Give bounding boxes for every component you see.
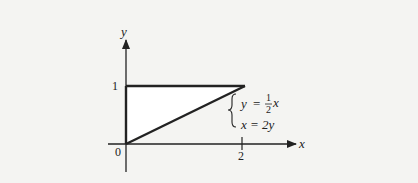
svg-text:2: 2 [266, 104, 271, 115]
svg-text:=: = [253, 96, 260, 111]
x-tick-label-2: 2 [238, 149, 244, 163]
coordinate-diagram: y x 0 1 2 y = 1 2 x x = 2y [0, 0, 418, 183]
y-tick-label-1: 1 [112, 79, 118, 93]
equation-x-2y: x = 2y [240, 117, 275, 132]
svg-text:y: y [239, 96, 247, 111]
y-axis-label: y [119, 24, 127, 39]
svg-text:1: 1 [266, 92, 271, 103]
origin-label: 0 [115, 145, 121, 159]
svg-text:x: x [272, 95, 279, 110]
equation-y-half-x: y = 1 2 x [239, 92, 279, 115]
brace [228, 94, 236, 127]
x-axis-label: x [298, 136, 305, 151]
